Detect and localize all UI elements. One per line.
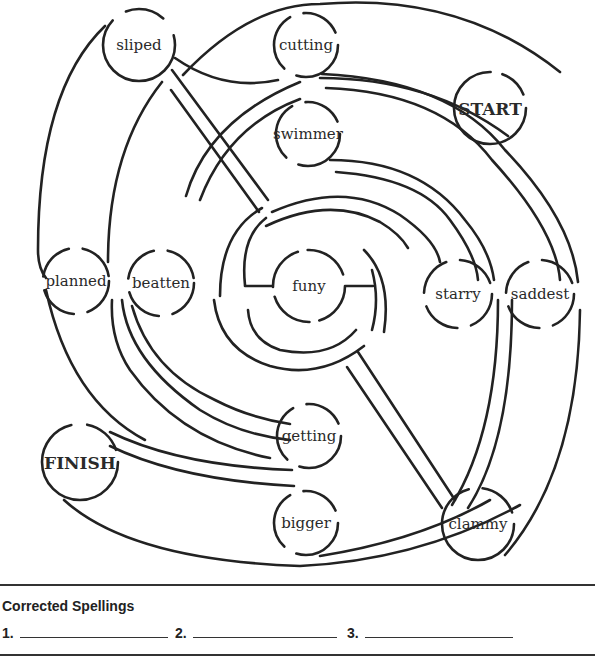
word-bigger: bigger bbox=[281, 514, 331, 532]
word-saddest: saddest bbox=[511, 285, 569, 303]
word-swimmer: swimmer bbox=[273, 125, 344, 143]
answer-line-3[interactable] bbox=[365, 637, 513, 638]
word-starry: starry bbox=[435, 285, 481, 303]
word-planned: planned bbox=[45, 272, 107, 290]
answer-number-1: 1. bbox=[2, 625, 14, 641]
answer-blank-2[interactable]: 2. bbox=[175, 625, 187, 641]
word-sliped: sliped bbox=[116, 36, 162, 54]
bottom-divider bbox=[0, 654, 595, 656]
spelling-maze-diagram: START cutting swimmer sliped planned bea… bbox=[0, 0, 595, 580]
corrected-spellings-title: Corrected Spellings bbox=[2, 598, 134, 614]
finish-label: FINISH bbox=[44, 453, 116, 473]
answer-number-3: 3. bbox=[347, 625, 359, 641]
answer-blank-3[interactable]: 3. bbox=[347, 625, 359, 641]
word-funy: funy bbox=[292, 277, 326, 295]
corrected-spellings-section: Corrected Spellings 1. 2. 3. bbox=[0, 584, 595, 666]
answer-blank-1[interactable]: 1. bbox=[2, 625, 14, 641]
word-cutting: cutting bbox=[279, 36, 334, 54]
word-clammy: clammy bbox=[448, 515, 508, 533]
start-label: START bbox=[458, 99, 522, 119]
top-divider bbox=[0, 584, 595, 586]
answer-blanks-row: 1. 2. 3. bbox=[0, 625, 595, 647]
inner-spiral bbox=[214, 197, 440, 370]
answer-number-2: 2. bbox=[175, 625, 187, 641]
outer-path bbox=[38, 2, 560, 458]
answer-line-1[interactable] bbox=[20, 637, 168, 638]
answer-line-2[interactable] bbox=[193, 637, 337, 638]
word-getting: getting bbox=[282, 427, 337, 445]
word-beatten: beatten bbox=[132, 274, 190, 292]
